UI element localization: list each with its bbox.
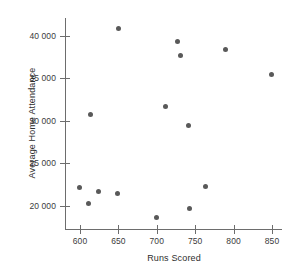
y-axis-tick: [60, 206, 70, 207]
data-point: [178, 53, 183, 58]
y-axis-title: Average Home Attendance: [27, 43, 37, 203]
data-point: [175, 39, 180, 44]
data-point: [203, 184, 208, 189]
x-axis-tick: [157, 225, 158, 234]
scatter-chart: 20 00025 00030 00035 00040 000 600650700…: [0, 0, 301, 277]
y-axis-tick: [60, 121, 70, 122]
y-axis-tick: [60, 78, 70, 79]
data-point: [77, 185, 82, 190]
x-axis-tick-label: 700: [137, 236, 177, 246]
x-axis-tick: [272, 225, 273, 234]
x-axis-tick: [195, 225, 196, 234]
x-axis-tick-label: 750: [175, 236, 215, 246]
x-axis-tick: [234, 225, 235, 234]
x-axis-tick: [118, 225, 119, 234]
y-axis-line: [65, 18, 66, 230]
x-axis-tick-label: 800: [214, 236, 254, 246]
data-point: [96, 189, 101, 194]
x-axis-title: Runs Scored: [66, 253, 282, 263]
data-point: [186, 123, 191, 128]
plot-area: 20 00025 00030 00035 00040 000 600650700…: [0, 0, 301, 277]
x-axis-line: [66, 229, 282, 230]
data-point: [269, 72, 274, 77]
data-point: [115, 191, 120, 196]
x-axis-tick-label: 650: [98, 236, 138, 246]
data-point: [86, 201, 91, 206]
x-axis-tick-label: 850: [252, 236, 292, 246]
data-point: [163, 104, 168, 109]
data-point: [187, 206, 192, 211]
y-axis-tick: [60, 163, 70, 164]
data-point: [116, 26, 121, 31]
x-axis-tick: [80, 225, 81, 234]
data-point: [154, 215, 159, 220]
y-axis-tick: [60, 36, 70, 37]
data-point: [223, 47, 228, 52]
data-point: [88, 112, 93, 117]
x-axis-tick-label: 600: [60, 236, 100, 246]
y-axis-tick-label: 40 000: [12, 31, 56, 41]
